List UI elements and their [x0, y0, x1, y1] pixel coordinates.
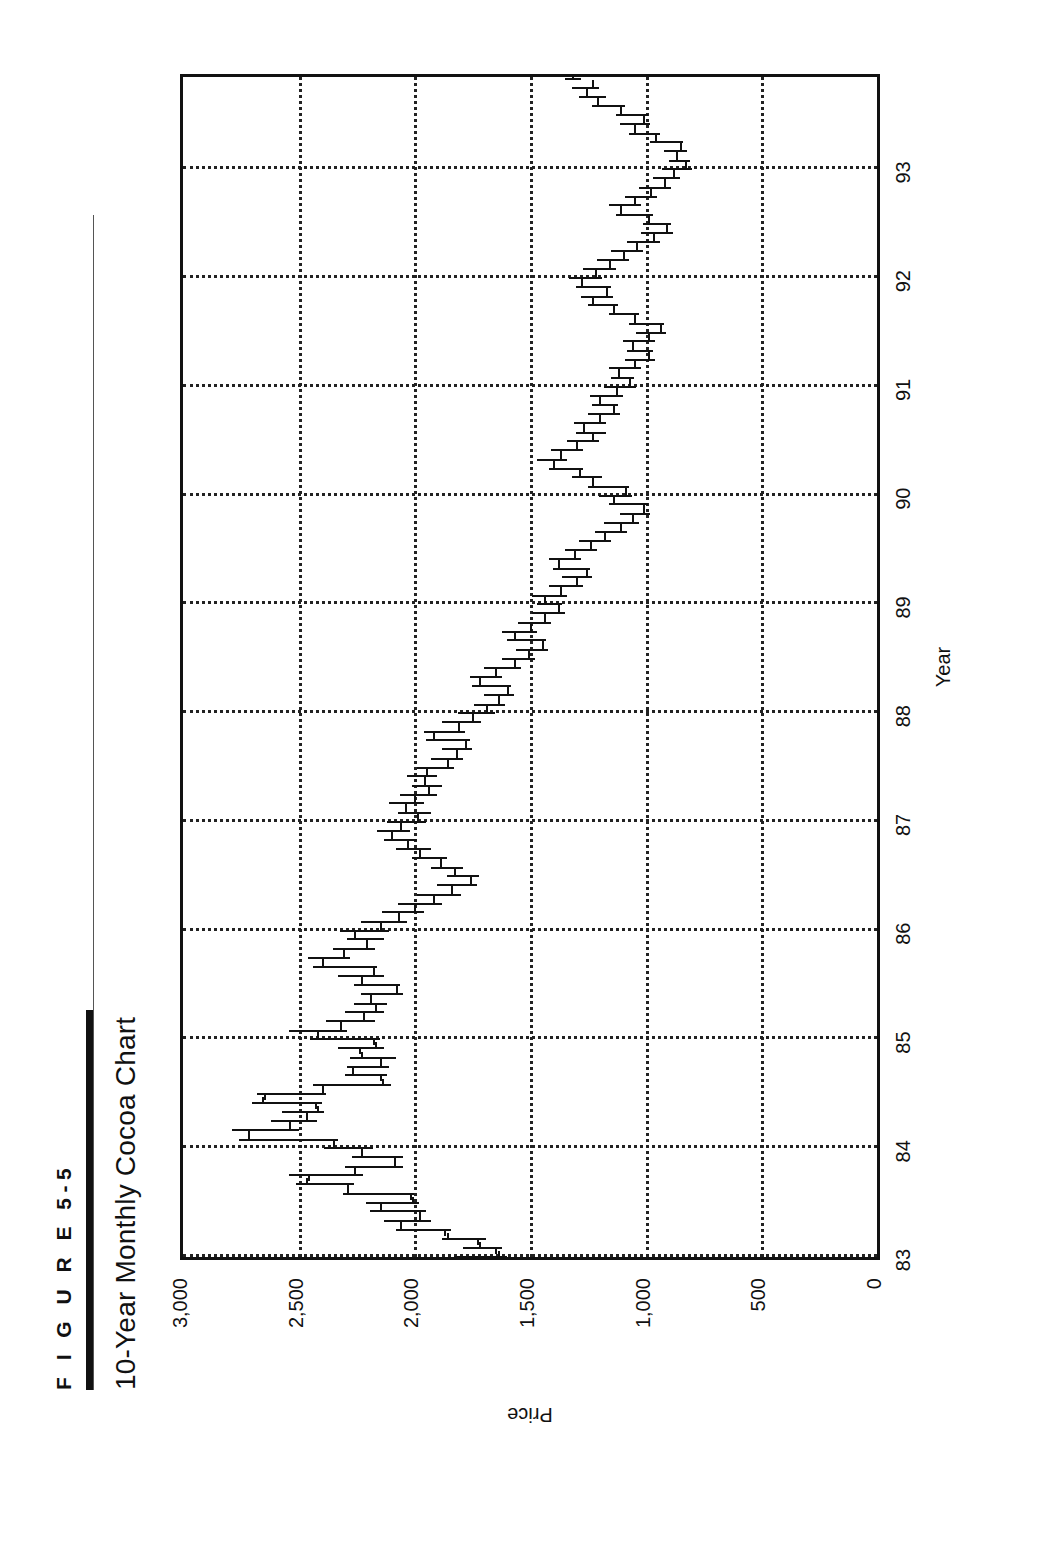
ohlc-bar — [257, 1093, 326, 1095]
ohlc-close-tick — [479, 1242, 481, 1247]
ohlc-bar — [609, 204, 641, 206]
ohlc-open-tick — [498, 696, 500, 701]
ohlc-open-tick — [433, 896, 435, 901]
ohlc-bar — [271, 1120, 317, 1122]
ohlc-open-tick — [417, 814, 419, 819]
ohlc-bar — [639, 187, 671, 189]
ohlc-open-tick — [495, 1249, 497, 1254]
y-axis-title: Price — [507, 1403, 553, 1426]
ohlc-bar — [417, 894, 461, 896]
ohlc-close-tick — [375, 1042, 377, 1047]
ohlc-open-tick — [530, 624, 532, 629]
ohlc-bar — [308, 957, 350, 959]
ohlc-open-tick — [632, 342, 634, 347]
ohlc-open-tick — [592, 478, 594, 483]
ohlc-bar — [518, 622, 550, 624]
ohlc-open-tick — [583, 424, 585, 429]
ohlc-bar — [396, 1229, 452, 1231]
grid-line-vertical — [183, 166, 877, 169]
ohlc-open-tick — [625, 488, 627, 493]
ohlc-open-tick — [620, 107, 622, 112]
ohlc-open-tick — [579, 470, 581, 475]
ohlc-open-tick — [653, 234, 655, 239]
ohlc-open-tick — [660, 325, 662, 330]
x-tick-label: 87 — [892, 814, 915, 836]
ohlc-open-tick — [352, 1068, 354, 1073]
ohlc-open-tick — [433, 733, 435, 738]
ohlc-open-tick — [676, 152, 678, 157]
ohlc-bar — [426, 739, 470, 741]
ohlc-open-tick — [363, 1013, 365, 1018]
ohlc-bar — [424, 731, 466, 733]
ohlc-open-tick — [333, 1141, 335, 1146]
grid-line-vertical — [183, 1037, 877, 1040]
ohlc-bar — [333, 948, 375, 950]
ohlc-open-tick — [542, 641, 544, 646]
ohlc-bar — [310, 1039, 379, 1041]
ohlc-bar — [620, 513, 650, 515]
ohlc-open-tick — [643, 116, 645, 121]
grid-line-horizontal — [299, 77, 302, 1257]
ohlc-close-tick — [382, 1079, 384, 1084]
y-tick-label: 500 — [747, 1278, 770, 1311]
ohlc-open-tick — [592, 298, 594, 303]
ohlc-open-tick — [444, 1231, 446, 1236]
ohlc-bar — [384, 839, 416, 841]
ohlc-open-tick — [419, 1212, 421, 1217]
ohlc-open-tick — [544, 597, 546, 602]
ohlc-open-tick — [576, 442, 578, 447]
ohlc-open-tick — [613, 406, 615, 411]
y-tick-label: 0 — [863, 1278, 886, 1289]
x-tick-label: 86 — [892, 923, 915, 945]
ohlc-open-tick — [528, 651, 530, 656]
figure-rule-thick — [86, 1010, 93, 1390]
ohlc-open-tick — [486, 706, 488, 711]
ohlc-bar — [239, 1139, 338, 1141]
ohlc-bar — [507, 639, 546, 641]
ohlc-open-tick — [632, 515, 634, 520]
ohlc-open-tick — [574, 551, 576, 556]
ohlc-open-tick — [648, 216, 650, 221]
ohlc-bar — [625, 359, 655, 361]
ohlc-bar — [627, 241, 659, 243]
ohlc-open-tick — [398, 913, 400, 918]
x-axis-title: Year — [932, 74, 955, 1260]
ohlc-open-tick — [629, 379, 631, 384]
ohlc-bar — [588, 413, 620, 415]
ohlc-open-tick — [380, 1076, 382, 1081]
ohlc-open-tick — [322, 1086, 324, 1091]
ohlc-bar — [579, 96, 607, 98]
ohlc-bar — [400, 794, 437, 796]
ohlc-open-tick — [664, 179, 666, 184]
ohlc-bar — [354, 1003, 386, 1005]
scanned-page-rotator: F I G U R E 5-5 10-Year Monthly Cocoa Ch… — [0, 0, 1044, 1566]
ohlc-open-tick — [426, 769, 428, 774]
ohlc-open-tick — [650, 189, 652, 194]
ohlc-open-tick — [643, 505, 645, 510]
ohlc-bar — [662, 168, 692, 170]
ohlc-close-tick — [447, 1233, 449, 1238]
ohlc-bar — [431, 867, 463, 869]
ohlc-open-tick — [354, 1168, 356, 1173]
ohlc-open-tick — [451, 886, 453, 891]
ohlc-bar — [537, 459, 567, 461]
grid-line-vertical — [183, 819, 877, 822]
ohlc-bar — [590, 395, 622, 397]
ohlc-bar — [354, 984, 400, 986]
ohlc-open-tick — [613, 306, 615, 311]
ohlc-bar — [583, 269, 615, 271]
ohlc-open-tick — [347, 1185, 349, 1190]
ohlc-open-tick — [470, 877, 472, 882]
figure-number-label: F I G U R E 5-5 — [52, 1163, 76, 1390]
ohlc-open-tick — [477, 1240, 479, 1245]
ohlc-bar — [326, 1020, 375, 1022]
ohlc-open-tick — [317, 1032, 319, 1037]
ohlc-open-tick — [373, 968, 375, 973]
ohlc-open-tick — [400, 1222, 402, 1227]
ohlc-open-tick — [370, 995, 372, 1000]
ohlc-open-tick — [590, 542, 592, 547]
y-tick-label: 2,000 — [400, 1278, 423, 1328]
ohlc-bar — [296, 1183, 354, 1185]
ohlc-open-tick — [306, 1113, 308, 1118]
ohlc-open-tick — [558, 605, 560, 610]
